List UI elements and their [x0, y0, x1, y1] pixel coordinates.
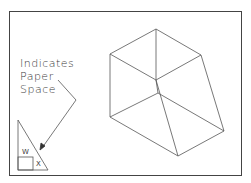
annotation-line-3: Space — [20, 84, 56, 95]
wireframe-box — [110, 29, 224, 156]
annotation-line-1: Indicates — [20, 58, 74, 69]
annotation-line-2: Paper — [20, 71, 54, 82]
ucs-x-label: X — [36, 161, 41, 168]
ucs-w-label: W — [22, 149, 29, 156]
